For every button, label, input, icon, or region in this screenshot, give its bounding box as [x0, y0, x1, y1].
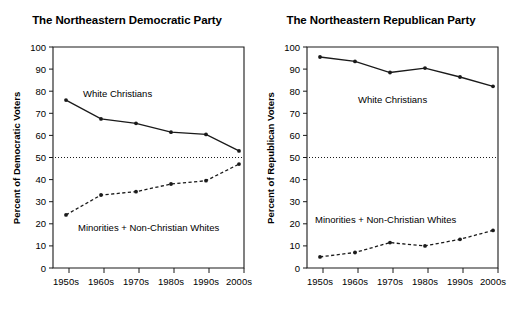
- y-tick-label-80: 80: [289, 86, 300, 97]
- series-line-white-christians-democratic: [66, 100, 239, 151]
- x-tick-label-1960s: 1960s: [88, 276, 114, 287]
- y-tick-label-0: 0: [41, 263, 46, 274]
- y-tick-label-90: 90: [35, 64, 46, 75]
- y-tick-label-40: 40: [35, 174, 46, 185]
- y-tick-label-50: 50: [289, 152, 300, 163]
- two-panel-line-chart-figure: The Northeastern Democratic Party Percen…: [0, 0, 508, 310]
- series-line-white-christians-republican: [320, 57, 493, 86]
- x-tick-label-2000s: 2000s: [226, 276, 252, 287]
- y-tick-label-60: 60: [289, 130, 300, 141]
- x-tick-label-1960s: 1960s: [342, 276, 368, 287]
- series-markers-white-christians-democratic: [64, 98, 241, 153]
- y-axis-title-democratic: Percent of Democratic Voters: [11, 92, 22, 224]
- y-tick-label-10: 10: [289, 240, 300, 251]
- y-tick-label-80: 80: [35, 86, 46, 97]
- chart-panel-republican: The Northeastern Republican Party Percen…: [254, 0, 508, 310]
- series-label-white-christians-republican: White Christians: [358, 94, 427, 105]
- series-line-minorities-democratic: [66, 164, 239, 215]
- y-tick-label-20: 20: [289, 218, 300, 229]
- plot-area-democratic: Percent of Democratic Voters 100 90 80 7…: [0, 0, 254, 310]
- y-tick-label-100: 100: [30, 42, 46, 53]
- y-tick-label-20: 20: [35, 218, 46, 229]
- x-tick-label-1990s: 1990s: [193, 276, 219, 287]
- y-tick-label-10: 10: [35, 240, 46, 251]
- series-label-minorities-republican: Minorities + Non-Christian Whites: [315, 214, 456, 225]
- x-tick-label-1970s: 1970s: [377, 276, 403, 287]
- series-line-minorities-republican: [320, 230, 493, 257]
- y-tick-label-40: 40: [289, 174, 300, 185]
- y-tick-label-60: 60: [35, 130, 46, 141]
- y-tick-label-30: 30: [35, 196, 46, 207]
- x-tick-label-1980s: 1980s: [412, 276, 438, 287]
- x-tick-label-1950s: 1950s: [53, 276, 79, 287]
- series-label-minorities-democratic: Minorities + Non-Christian Whites: [78, 222, 219, 233]
- y-tick-label-50: 50: [35, 152, 46, 163]
- y-tick-label-90: 90: [289, 64, 300, 75]
- x-tick-label-1990s: 1990s: [447, 276, 473, 287]
- y-tick-label-70: 70: [35, 108, 46, 119]
- series-markers-minorities-democratic: [64, 162, 241, 217]
- series-label-white-christians-democratic: White Christians: [83, 88, 152, 99]
- y-tick-label-30: 30: [289, 196, 300, 207]
- x-tick-label-1970s: 1970s: [123, 276, 149, 287]
- x-tick-label-1950s: 1950s: [307, 276, 333, 287]
- x-tick-label-2000s: 2000s: [480, 276, 506, 287]
- x-tick-label-1980s: 1980s: [158, 276, 184, 287]
- plot-area-republican: Percent of Republican Voters 100 90 80 7…: [254, 0, 508, 310]
- chart-panel-democratic: The Northeastern Democratic Party Percen…: [0, 0, 254, 310]
- y-tick-label-70: 70: [289, 108, 300, 119]
- y-tick-label-100: 100: [284, 42, 300, 53]
- y-axis-title-republican: Percent of Republican Voters: [265, 92, 276, 224]
- y-tick-label-0: 0: [295, 263, 300, 274]
